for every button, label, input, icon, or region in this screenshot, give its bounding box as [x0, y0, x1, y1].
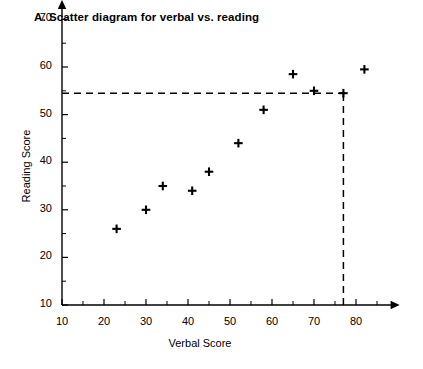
x-axis-arrow: [391, 301, 400, 309]
y-tick-label: 50: [26, 107, 52, 119]
x-tick-label: 60: [259, 315, 285, 327]
data-point: [112, 225, 121, 234]
y-tick-label: 10: [26, 297, 52, 309]
data-point: [339, 89, 348, 98]
y-tick-label: 40: [26, 154, 52, 166]
data-point: [360, 65, 369, 74]
x-tick-label: 70: [301, 315, 327, 327]
x-tick-label: 30: [133, 315, 159, 327]
y-tick-label: 60: [26, 59, 52, 71]
data-point: [159, 182, 168, 191]
y-axis-arrow: [58, 0, 66, 9]
y-tick-label: 20: [26, 249, 52, 261]
data-point: [259, 106, 268, 115]
y-tick-label: 30: [26, 202, 52, 214]
x-tick-label: 50: [217, 315, 243, 327]
scatter-figure: A. Scatter diagram for verbal vs. readin…: [0, 0, 423, 369]
data-point: [234, 139, 243, 148]
x-tick-label: 80: [343, 315, 369, 327]
plot-canvas: [0, 0, 423, 369]
data-point: [289, 70, 298, 79]
y-tick-label: 70: [26, 11, 52, 23]
x-tick-label: 20: [91, 315, 117, 327]
x-tick-label: 10: [49, 315, 75, 327]
data-point: [142, 206, 151, 215]
data-point: [205, 167, 214, 176]
x-tick-label: 40: [175, 315, 201, 327]
data-point: [188, 186, 197, 195]
